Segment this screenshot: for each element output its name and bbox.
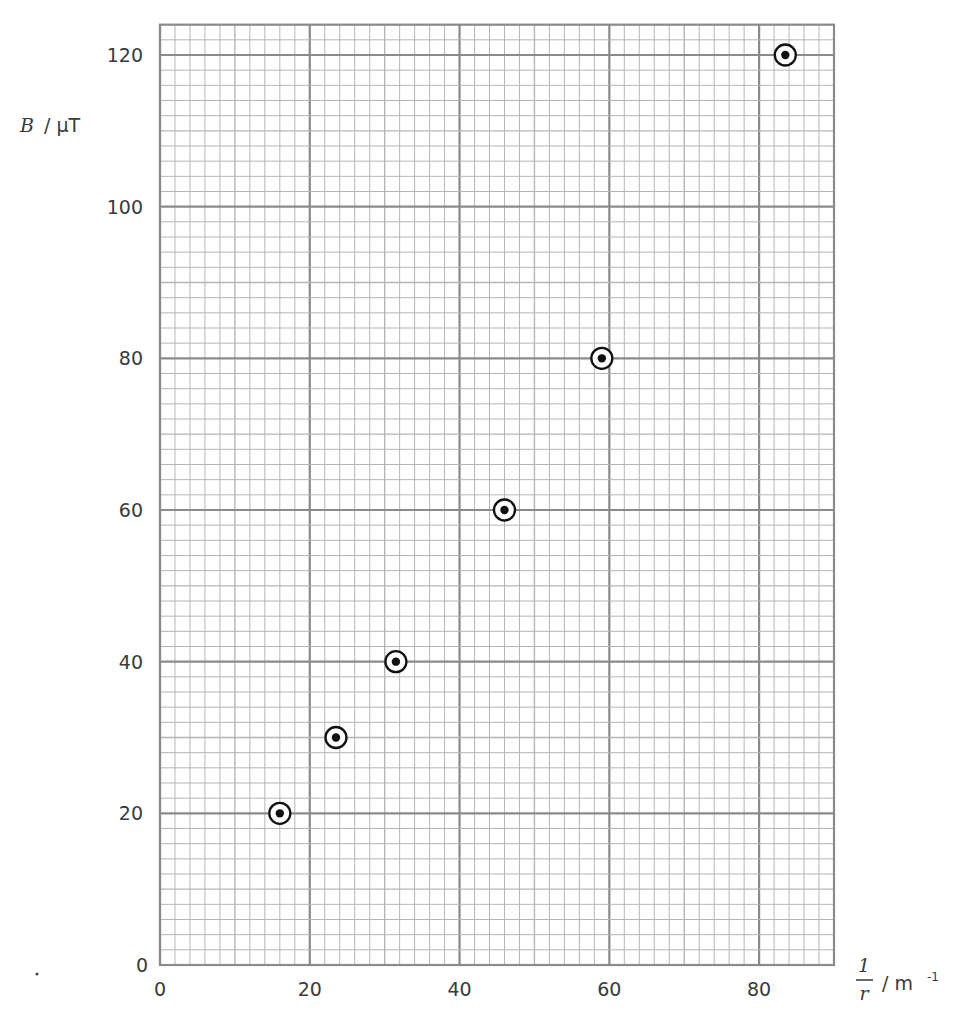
y-tick-label: 40 [119,651,143,673]
stray-dot [36,973,39,976]
y-axis-ticks: 020406080100120 [107,44,148,976]
x-tick-label: 20 [298,978,322,1000]
data-point [494,500,515,521]
graph-paper-grid [160,25,834,965]
y-tick-label: 60 [119,499,143,521]
y-axis-label: B / μT [19,114,81,136]
x-axis-label: 1 r / m -1 [856,954,939,1004]
data-point [385,651,406,672]
x-axis-numerator: 1 [858,954,870,976]
y-tick-label: 20 [119,802,143,824]
y-axis-unit: / μT [44,114,81,136]
data-point [591,348,612,369]
x-tick-label: 60 [597,978,621,1000]
x-axis-unit: / m [882,972,913,994]
scatter-chart: 020406080 020406080100120 B / μT 1 r / m… [0,0,959,1019]
data-point [325,727,346,748]
x-tick-label: 80 [747,978,771,1000]
data-point [775,45,796,66]
y-tick-label: 120 [107,44,143,66]
x-tick-label: 40 [447,978,471,1000]
y-axis-symbol: B [19,114,34,136]
x-axis-ticks: 020406080 [154,978,771,1000]
y-tick-label: 100 [107,196,143,218]
x-axis-unit-sup: -1 [927,970,939,984]
y-tick-label: 0 [136,954,148,976]
x-tick-label: 0 [154,978,166,1000]
data-point [269,803,290,824]
x-axis-denominator: r [859,982,870,1004]
y-tick-label: 80 [119,347,143,369]
